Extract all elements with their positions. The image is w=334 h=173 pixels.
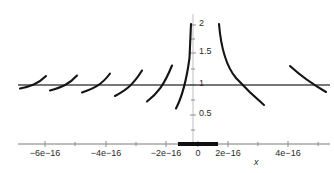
x-tick-label-minus2e-16: −2e−16 — [151, 149, 182, 158]
curve-branch — [20, 76, 46, 89]
curve-branch — [290, 66, 326, 92]
chart-plot-area: 2 1.5 1 0.5 −6e−16 −4e−16 −2e−16 0 2e−16… — [0, 0, 334, 173]
curve-branch — [82, 74, 110, 93]
curve-branch — [50, 76, 77, 91]
curve-branch — [219, 24, 264, 105]
y-tick-label-1: 1 — [199, 79, 204, 88]
curve-branch — [147, 66, 172, 102]
y-tick-label-0p5: 0.5 — [199, 109, 212, 118]
curve-branch — [176, 24, 191, 109]
curve-branch — [115, 71, 142, 97]
x-tick-label-minus4e-16: −4e−16 — [91, 149, 122, 158]
x-tick-label-zero: 0 — [195, 149, 200, 158]
data-curve — [20, 24, 326, 109]
x-axis-title: x — [254, 157, 259, 167]
x-tick-label-4e-16: 4e−16 — [275, 149, 300, 158]
y-tick-label-2: 2 — [199, 19, 204, 28]
y-tick-label-1p5: 1.5 — [199, 47, 212, 56]
x-tick-label-minus6e-16: −6e−16 — [30, 149, 61, 158]
x-tick-label-2e-16: 2e−16 — [215, 149, 240, 158]
